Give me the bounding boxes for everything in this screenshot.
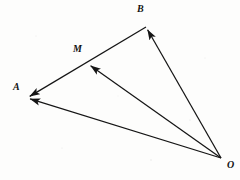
vector-OM [91,66,221,158]
point-label-A: A [13,82,20,92]
point-label-M: M [73,44,82,54]
vector-diagram-figure: O A B M [0,0,240,180]
segment-BA [30,27,146,96]
point-label-O: O [227,160,234,170]
point-label-B: B [137,4,144,14]
diagram-canvas [0,0,240,180]
